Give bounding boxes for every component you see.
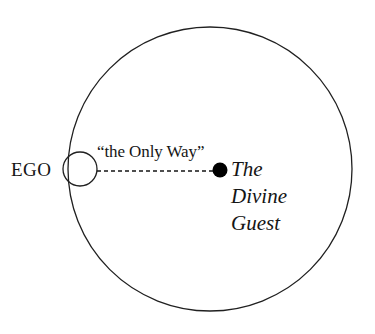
diagram-canvas: EGO “the Only Way” The Divine Guest bbox=[0, 0, 375, 334]
divine-guest-dot bbox=[213, 163, 228, 178]
ego-label: EGO bbox=[11, 160, 51, 179]
divine-guest-line-2: Divine bbox=[231, 183, 287, 210]
only-way-label: “the Only Way” bbox=[97, 143, 204, 160]
divine-guest-line-1: The bbox=[231, 156, 287, 183]
divine-guest-label: The Divine Guest bbox=[231, 156, 287, 237]
divine-realm-circle bbox=[68, 27, 352, 311]
diagram-vector-layer bbox=[0, 0, 375, 334]
divine-guest-line-3: Guest bbox=[231, 210, 287, 237]
